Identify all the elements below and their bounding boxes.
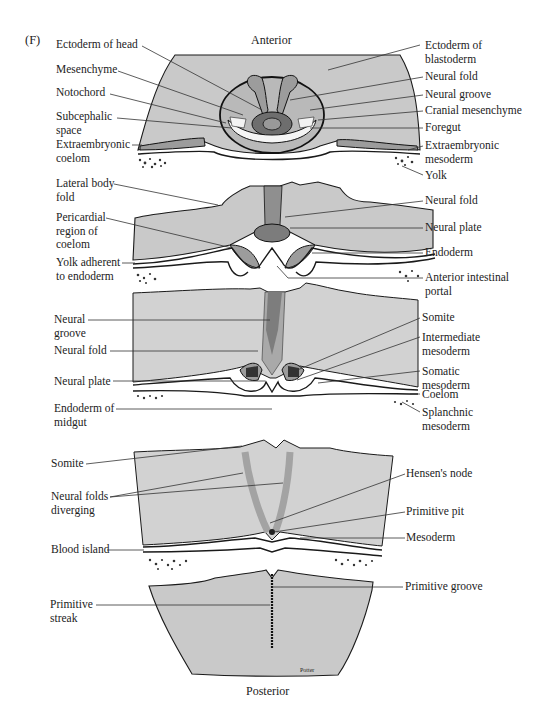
label-intermediate-mesoderm: Intermediate mesoderm [422, 331, 480, 358]
panel-letter: (F) [25, 33, 40, 48]
label-neural-fold-1: Neural fold [425, 70, 478, 84]
label-neural-plate-2: Neural plate [425, 221, 482, 235]
label-primitive-pit: Primitive pit [406, 505, 464, 519]
label-somite-3: Somite [422, 311, 455, 325]
label-neural-plate-3: Neural plate [54, 375, 111, 389]
label-extraembryonic-coelom: Extraembryonic coelom [56, 138, 130, 165]
label-yolk: Yolk [425, 169, 447, 183]
label-endoderm: Endoderm [425, 246, 473, 260]
label-cranial-mesenchyme: Cranial mesenchyme [425, 104, 522, 118]
label-primitive-groove: Primitive groove [405, 580, 483, 594]
section-midgut-drawing [133, 283, 418, 405]
label-anterior-intestinal-portal: Anterior intestinal portal [425, 271, 509, 298]
label-neural-groove-1: Neural groove [425, 88, 491, 102]
label-notochord: Notochord [56, 86, 105, 100]
label-ectoderm-of-head: Ectoderm of head [56, 38, 138, 52]
label-mesoderm: Mesoderm [406, 531, 455, 545]
label-blood-island: Blood island [51, 543, 109, 557]
artist-signature: Potter [300, 667, 314, 673]
label-neural-fold-3: Neural fold [54, 344, 107, 358]
label-pericardial-region: Pericardial region of coelom [56, 211, 106, 252]
embryo-cross-section-figure: Potter [0, 0, 543, 717]
label-subcephalic-space: Subcephalic space [56, 110, 112, 137]
section-primitive-streak-drawing: Potter [149, 570, 373, 676]
label-neural-folds-diverging: Neural folds diverging [51, 490, 108, 517]
label-lateral-body-fold: Lateral body fold [56, 177, 114, 204]
label-coelom: Coelom [422, 388, 458, 402]
label-hensens-node: Hensen's node [406, 467, 472, 481]
label-neural-groove-3: Neural groove [54, 313, 86, 340]
orientation-anterior: Anterior [251, 33, 292, 48]
label-endoderm-of-midgut: Endoderm of midgut [54, 402, 114, 429]
label-extraembryonic-mesoderm: Extraembryonic mesoderm [425, 139, 499, 166]
label-somite-4: Somite [51, 457, 84, 471]
label-mesenchyme: Mesenchyme [56, 63, 117, 77]
label-ectoderm-of-blastoderm: Ectoderm of blastoderm [425, 39, 482, 66]
orientation-posterior: Posterior [246, 684, 289, 699]
label-primitive-streak: Primitive streak [50, 598, 93, 625]
label-foregut: Foregut [425, 121, 461, 135]
label-yolk-adherent: Yolk adherent to endoderm [56, 256, 120, 283]
label-neural-fold-2: Neural fold [425, 194, 478, 208]
label-splanchnic-mesoderm: Splanchnic mesoderm [422, 406, 473, 433]
section-hensens-node-drawing [134, 440, 393, 570]
